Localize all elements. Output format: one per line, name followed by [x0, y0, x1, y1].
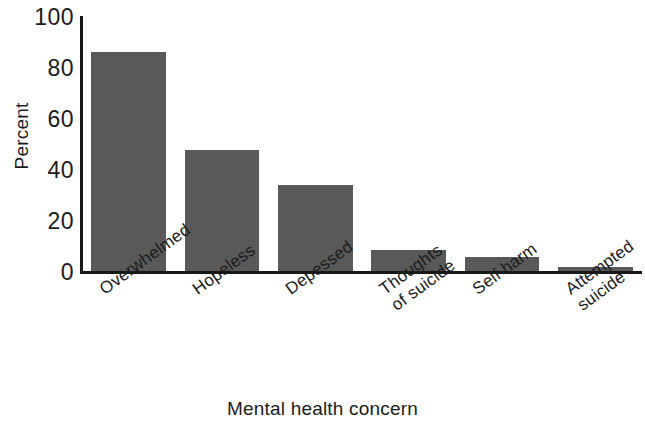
x-axis-title: Mental health concern: [0, 398, 645, 420]
bar: [91, 52, 166, 271]
bar-chart: Percent 100 80 60 40 20 0 OverwhelmedHop…: [0, 0, 645, 431]
bars-layer: [0, 0, 645, 431]
